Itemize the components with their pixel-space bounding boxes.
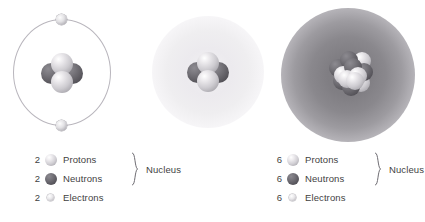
neutron-icon: [45, 173, 57, 185]
nucleus-caption: Nucleus: [389, 164, 424, 175]
proton-count: 6: [270, 155, 282, 165]
proton-icon: [287, 154, 299, 166]
legend-row-protons: 6 Protons: [270, 150, 346, 169]
nucleus-brace-icon: [131, 152, 142, 186]
legend-row-neutrons: 6 Neutrons: [270, 169, 346, 188]
electron-sphere-top: [56, 14, 67, 25]
nucleus-caption: Nucleus: [146, 164, 181, 175]
diagram-canvas: 2 Protons 2 Neutrons 2 Electrons Nucleus…: [0, 0, 425, 222]
legend-row-electrons: 6 Electrons: [270, 188, 346, 207]
legend-row-protons: 2 Protons: [28, 150, 104, 169]
legend-row-electrons: 2 Electrons: [28, 188, 104, 207]
electron-label: Electrons: [63, 193, 104, 203]
neutron-count: 6: [270, 174, 282, 184]
helium-nucleus-bohr: [41, 52, 83, 94]
carbon-nucleus: [327, 50, 373, 96]
proton-icon: [45, 154, 57, 166]
nucleus-brace-icon: [374, 152, 385, 186]
proton-sphere: [197, 70, 219, 92]
electron-label: Electrons: [305, 193, 346, 203]
neutron-icon: [287, 173, 299, 185]
helium-nucleus-cloud: [187, 51, 229, 93]
proton-label: Protons: [305, 155, 338, 165]
neutron-count: 2: [28, 174, 40, 184]
electron-icon: [47, 194, 54, 201]
proton-label: Protons: [63, 155, 96, 165]
neutron-label: Neutrons: [305, 174, 344, 184]
proton-count: 2: [28, 155, 40, 165]
electron-icon: [289, 194, 296, 201]
legend-carbon: 6 Protons 6 Neutrons 6 Electrons: [270, 150, 346, 207]
electron-sphere-bottom: [56, 120, 67, 131]
neutron-label: Neutrons: [63, 174, 102, 184]
proton-sphere: [346, 72, 364, 90]
legend-helium: 2 Protons 2 Neutrons 2 Electrons: [28, 150, 104, 207]
electron-count: 6: [270, 193, 282, 203]
electron-count: 2: [28, 193, 40, 203]
legend-row-neutrons: 2 Neutrons: [28, 169, 104, 188]
proton-sphere: [51, 71, 73, 93]
